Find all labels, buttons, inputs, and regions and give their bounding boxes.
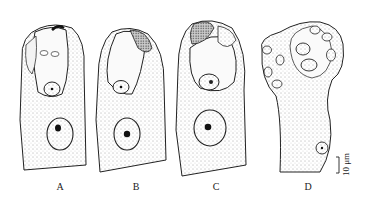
panel-c-cell (176, 21, 246, 176)
panel-label-b: B (133, 181, 140, 192)
panel-label-d: D (304, 181, 311, 192)
scale-bar-label: 10 μm (341, 153, 351, 176)
panel-label-c: C (213, 181, 220, 192)
panel-b-cell (96, 28, 166, 172)
figure-illustration (0, 0, 369, 209)
panel-label-a: A (56, 181, 63, 192)
panel-d-cell (261, 22, 343, 172)
panel-a-cell (20, 25, 86, 170)
scale-bar (336, 157, 339, 173)
